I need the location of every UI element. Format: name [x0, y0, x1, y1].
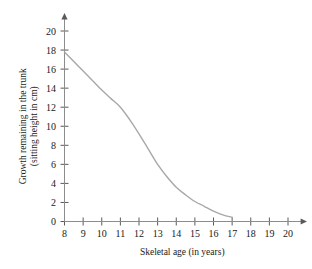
- x-tick-label: 15: [190, 228, 200, 239]
- y-axis-title-line1: Growth remaining in the trunk: [18, 68, 28, 184]
- y-tick-label: 10: [46, 121, 56, 132]
- chart-figure: 02468101214161820 8910111213141516171819…: [0, 0, 312, 269]
- y-tick-label: 6: [51, 159, 56, 170]
- y-tick-label: 4: [51, 178, 56, 189]
- y-tick-label: 0: [51, 216, 56, 227]
- y-tick-label: 2: [51, 197, 56, 208]
- x-tick-label: 20: [283, 228, 293, 239]
- x-tick-label: 18: [246, 228, 256, 239]
- x-tick-label: 16: [209, 228, 219, 239]
- x-tick-label: 14: [171, 228, 181, 239]
- y-tick-label: 14: [46, 83, 56, 94]
- x-tick-label: 9: [81, 228, 86, 239]
- x-tick-label: 13: [153, 228, 163, 239]
- x-tick-label: 17: [227, 228, 237, 239]
- x-tick-label: 11: [116, 228, 126, 239]
- y-axis-title-line2: (sitting height in cm): [29, 86, 40, 166]
- y-tick-label: 8: [51, 140, 56, 151]
- x-axis-title: Skeletal age (in years): [140, 247, 225, 258]
- x-tick-label: 8: [62, 228, 67, 239]
- x-tick-label: 10: [97, 228, 107, 239]
- y-tick-label: 20: [46, 26, 56, 37]
- growth-remaining-line-chart: 02468101214161820 8910111213141516171819…: [0, 0, 312, 269]
- y-tick-label: 16: [46, 64, 56, 75]
- x-tick-label: 19: [264, 228, 274, 239]
- y-tick-label: 18: [46, 45, 56, 56]
- x-tick-label: 12: [134, 228, 144, 239]
- y-tick-label: 12: [46, 102, 56, 113]
